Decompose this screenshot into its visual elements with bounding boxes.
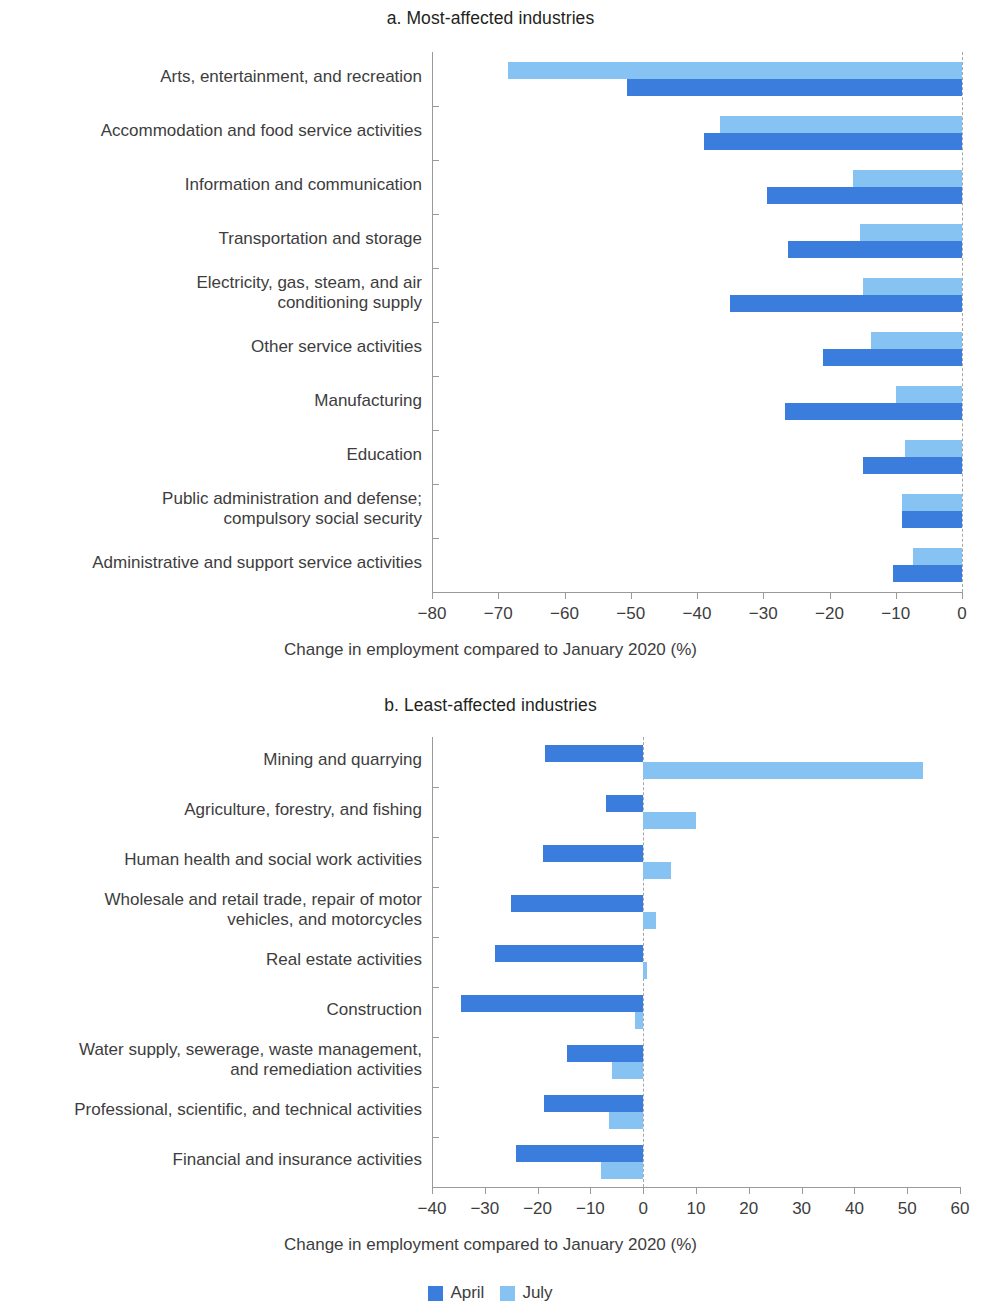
legend-swatch-icon <box>428 1286 443 1301</box>
x-tick <box>590 1187 591 1194</box>
x-tick-label: −70 <box>484 604 513 624</box>
category-label: Financial and insurance activities <box>0 1150 422 1170</box>
legend-label: July <box>522 1283 552 1303</box>
category-label: Arts, entertainment, and recreation <box>0 67 422 87</box>
x-tick <box>565 592 566 599</box>
bar-july <box>643 912 656 929</box>
bar-april <box>516 1145 643 1162</box>
panel-b-title: b. Least-affected industries <box>0 695 981 716</box>
category-tick <box>432 837 439 838</box>
category-label: Administrative and support service activ… <box>0 553 422 573</box>
category-label: Real estate activities <box>0 950 422 970</box>
bar-april <box>704 133 962 150</box>
bar-april <box>863 457 962 474</box>
x-tick-label: −10 <box>576 1199 605 1219</box>
x-tick <box>960 1187 961 1194</box>
x-tick-label: −40 <box>418 1199 447 1219</box>
x-tick-label: 60 <box>951 1199 970 1219</box>
category-label: Transportation and storage <box>0 229 422 249</box>
bar-april <box>730 295 962 312</box>
x-tick <box>696 1187 697 1194</box>
x-tick <box>432 592 433 599</box>
category-tick <box>432 214 439 215</box>
x-tick-label: 10 <box>687 1199 706 1219</box>
category-label: Information and communication <box>0 175 422 195</box>
category-label: Professional, scientific, and technical … <box>0 1100 422 1120</box>
x-tick <box>854 1187 855 1194</box>
category-tick <box>432 106 439 107</box>
bar-july <box>853 170 962 187</box>
bar-july <box>863 278 962 295</box>
category-label: Construction <box>0 1000 422 1020</box>
x-tick <box>432 1187 433 1194</box>
category-tick <box>432 887 439 888</box>
category-tick <box>432 484 439 485</box>
x-tick-label: −80 <box>418 604 447 624</box>
bar-july <box>860 224 962 241</box>
panel-a-x-axis-title: Change in employment compared to January… <box>0 640 981 660</box>
bar-april <box>823 349 962 366</box>
bar-july <box>643 812 696 829</box>
category-label: Water supply, sewerage, waste management… <box>0 1040 422 1080</box>
category-tick <box>432 1137 439 1138</box>
legend-item-july: July <box>500 1283 552 1303</box>
panel-a-plot-area <box>432 52 962 592</box>
x-tick-label: −40 <box>683 604 712 624</box>
bar-april <box>767 187 962 204</box>
bar-july <box>871 332 962 349</box>
x-tick <box>643 1187 644 1194</box>
x-tick-label: 40 <box>845 1199 864 1219</box>
category-tick <box>432 538 439 539</box>
category-label: Human health and social work activities <box>0 850 422 870</box>
legend-swatch-icon <box>500 1286 515 1301</box>
bar-april <box>511 895 643 912</box>
bar-april <box>785 403 962 420</box>
bar-july <box>913 548 962 565</box>
bar-july <box>896 386 962 403</box>
x-tick-label: −30 <box>470 1199 499 1219</box>
x-tick <box>697 592 698 599</box>
bar-april <box>567 1045 644 1062</box>
bar-april <box>545 745 643 762</box>
category-tick <box>432 787 439 788</box>
bar-july <box>635 1012 643 1029</box>
category-label: Manufacturing <box>0 391 422 411</box>
x-tick <box>962 592 963 599</box>
x-tick <box>830 592 831 599</box>
bar-july <box>905 440 962 457</box>
bar-april <box>495 945 643 962</box>
bar-july <box>643 962 647 979</box>
panel-a-zero-line <box>962 52 963 592</box>
category-label: Electricity, gas, steam, and air conditi… <box>0 273 422 313</box>
x-tick-label: 30 <box>792 1199 811 1219</box>
category-tick <box>432 1087 439 1088</box>
x-tick-label: −10 <box>881 604 910 624</box>
x-tick-label: −20 <box>523 1199 552 1219</box>
category-label: Public administration and defense; compu… <box>0 489 422 529</box>
x-tick-label: 20 <box>739 1199 758 1219</box>
x-tick-label: 0 <box>957 604 966 624</box>
x-tick <box>498 592 499 599</box>
chart-legend: AprilJuly <box>0 1283 981 1303</box>
x-tick <box>631 592 632 599</box>
panel-b-x-axis-title: Change in employment compared to January… <box>0 1235 981 1255</box>
category-tick <box>432 430 439 431</box>
category-tick <box>432 376 439 377</box>
x-tick <box>485 1187 486 1194</box>
bar-april <box>893 565 962 582</box>
bar-april <box>461 995 643 1012</box>
x-tick <box>802 1187 803 1194</box>
category-label: Agriculture, forestry, and fishing <box>0 800 422 820</box>
bar-april <box>606 795 643 812</box>
bar-july <box>643 762 923 779</box>
x-tick-label: −30 <box>749 604 778 624</box>
category-tick <box>432 322 439 323</box>
x-tick-label: 0 <box>638 1199 647 1219</box>
x-tick-label: −50 <box>616 604 645 624</box>
panel-b-y-axis-line <box>432 737 433 1187</box>
legend-label: April <box>450 1283 484 1303</box>
category-label: Mining and quarrying <box>0 750 422 770</box>
panel-b-plot-area <box>432 737 960 1187</box>
bar-april <box>788 241 962 258</box>
x-tick <box>763 592 764 599</box>
